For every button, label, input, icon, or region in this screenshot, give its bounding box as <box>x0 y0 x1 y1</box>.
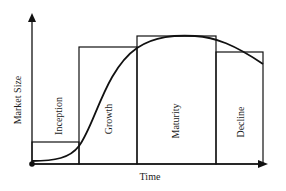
product-life-cycle-diagram: Market Size Time Inception Growth Maturi… <box>0 0 286 191</box>
y-axis-arrow-icon <box>28 13 36 22</box>
x-axis-label: Time <box>140 171 161 182</box>
stage-label-decline: Decline <box>235 106 246 138</box>
y-axis-label: Market Size <box>12 75 23 124</box>
origin-dot-icon <box>29 161 35 167</box>
stage-label-inception: Inception <box>53 97 64 135</box>
stage-label-growth: Growth <box>103 104 114 135</box>
maturity-box <box>137 36 216 164</box>
stage-label-maturity: Maturity <box>170 104 181 139</box>
